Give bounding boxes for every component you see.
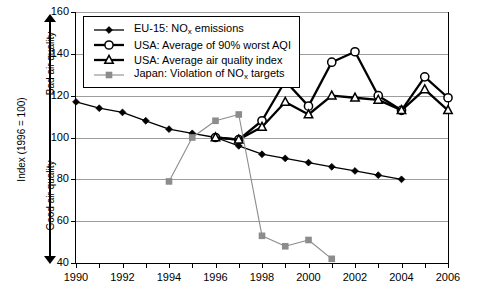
data-point — [96, 105, 103, 112]
legend-label: USA: Average of 90% worst AQI — [130, 39, 291, 51]
x-axis-tick — [425, 263, 426, 268]
data-point — [421, 73, 429, 81]
x-axis-tick — [285, 263, 286, 268]
good-air-quality-label: Good air quality — [45, 136, 56, 256]
data-point — [282, 243, 289, 250]
x-axis-tick — [123, 263, 124, 268]
legend-label: USA: Average air quality index — [130, 54, 282, 66]
x-axis-tick-label: 1992 — [101, 271, 145, 283]
plot-right-border — [448, 12, 449, 263]
legend-item[interactable]: Japan: Violation of NOx targets — [90, 67, 291, 82]
y-axis-title: Index (1996 = 100) — [16, 15, 27, 265]
y-axis-title-block: Index (1996 = 100) — [0, 0, 34, 290]
x-axis-tick — [216, 263, 217, 268]
y-axis-tick-label: 40 — [38, 257, 69, 268]
x-axis-tick-label: 1994 — [147, 271, 191, 283]
legend-label: EU-15: NOx emissions — [130, 22, 244, 38]
y-axis-tick-label: 100 — [38, 132, 69, 143]
legend-label: Japan: Violation of NOx targets — [130, 67, 285, 83]
data-point — [189, 134, 196, 141]
y-axis-tick-label: 80 — [38, 173, 69, 184]
x-axis-tick-label: 2006 — [426, 271, 470, 283]
data-point — [73, 99, 80, 106]
x-axis-tick-label: 1998 — [240, 271, 284, 283]
data-point — [328, 58, 336, 66]
x-axis-tick — [378, 263, 379, 268]
legend-item[interactable]: USA: Average of 90% worst AQI — [90, 37, 291, 52]
data-point — [444, 94, 452, 102]
y-axis-tick-label: 160 — [38, 6, 69, 17]
x-axis-tick-label: 2000 — [287, 271, 331, 283]
data-point — [235, 111, 242, 118]
x-axis-tick — [309, 263, 310, 268]
y-axis-tick-label: 120 — [38, 90, 69, 101]
x-axis-tick — [76, 263, 77, 268]
x-axis-tick-label: 2002 — [333, 271, 377, 283]
x-axis-tick-label: 1990 — [54, 271, 98, 283]
data-point — [166, 178, 173, 185]
data-point — [421, 85, 429, 93]
legend-item[interactable]: EU-15: NOx emissions — [90, 22, 291, 37]
x-axis-tick — [169, 263, 170, 268]
data-point — [351, 48, 359, 56]
x-axis-tick — [402, 263, 403, 268]
x-axis-tick — [239, 263, 240, 268]
chart-figure: Index (1996 = 100) Bad air quality Good … — [0, 0, 492, 290]
series-2 — [211, 85, 452, 143]
data-point — [328, 256, 335, 263]
x-axis-tick — [146, 263, 147, 268]
data-point — [352, 168, 359, 175]
open-circle-icon — [90, 38, 130, 52]
filled-square-icon — [90, 68, 130, 82]
x-axis-tick — [448, 263, 449, 268]
bad-air-quality-label: Bad air quality — [45, 4, 56, 124]
data-point — [282, 155, 289, 162]
x-axis-tick — [99, 263, 100, 268]
data-point — [375, 172, 382, 179]
x-axis-tick — [355, 263, 356, 268]
x-axis-tick-label: 2004 — [380, 271, 424, 283]
data-point — [259, 151, 266, 158]
filled-diamond-icon — [90, 23, 130, 37]
y-axis-tick-label: 60 — [38, 215, 69, 226]
data-point — [351, 93, 359, 101]
data-point — [281, 97, 289, 105]
data-point — [142, 117, 149, 124]
x-axis-tick — [192, 263, 193, 268]
x-axis-tick — [332, 263, 333, 268]
legend: EU-15: NOx emissionsUSA: Average of 90% … — [83, 16, 300, 88]
data-point — [398, 176, 405, 183]
data-point — [166, 126, 173, 133]
data-point — [305, 159, 312, 166]
data-point — [212, 117, 219, 124]
legend-item[interactable]: USA: Average air quality index — [90, 52, 291, 67]
x-axis-tick — [262, 263, 263, 268]
data-point — [259, 233, 266, 240]
data-point — [328, 163, 335, 170]
y-axis-tick-label: 140 — [38, 48, 69, 59]
open-triangle-icon — [90, 53, 130, 67]
x-axis-tick-label: 1996 — [194, 271, 238, 283]
data-point — [305, 237, 312, 244]
data-point — [328, 91, 336, 99]
data-point — [119, 109, 126, 116]
